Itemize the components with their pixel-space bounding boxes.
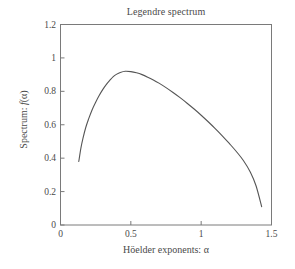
x-tick-marks [61,221,272,225]
y-tick-marks [61,25,65,226]
y-tick-label: 1.2 [20,20,56,30]
y-axis-label-argument: (α) [18,90,29,102]
y-axis-label-function: f [18,102,29,105]
legendre-spectrum-figure: Legendre spectrum 00.20.40.60.811.2 00.5… [0,0,295,269]
x-tick-label: 1.5 [266,229,278,239]
y-axis-label-prefix: Spectrum: [18,105,29,149]
y-axis-label: Spectrum: f(α) [18,50,29,190]
x-tick-label: 0 [58,229,63,239]
spectrum-curve [79,71,262,206]
x-tick-label: 1 [199,229,204,239]
plot-frame [61,25,272,226]
y-tick-label: 0 [20,220,56,230]
x-axis-label: Höelder exponents: α [60,244,272,255]
x-tick-label: 0.5 [125,229,137,239]
